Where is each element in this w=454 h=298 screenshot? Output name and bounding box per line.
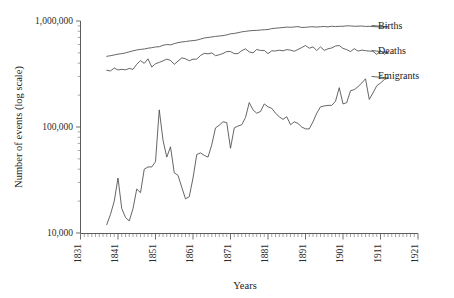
x-axis: 1831184118511861187118811891190119111921 bbox=[73, 234, 421, 264]
y-axis-tick-labels: 1,000,000100,00010,000 bbox=[35, 16, 73, 238]
series-line-emigrants bbox=[107, 78, 388, 225]
y-tick-label: 10,000 bbox=[47, 228, 73, 238]
x-axis-tick-labels: 1831184118511861187118811891190119111921 bbox=[73, 244, 421, 263]
x-tick-label: 1851 bbox=[148, 244, 158, 263]
series-end-labels: BirthsDeathsEmigrants bbox=[372, 20, 419, 81]
x-tick-label: 1911 bbox=[373, 244, 383, 263]
y-tick-label: 1,000,000 bbox=[35, 16, 73, 26]
line-chart: 1,000,000100,00010,000 18311841185118611… bbox=[0, 0, 454, 298]
x-tick-label: 1901 bbox=[335, 244, 345, 263]
x-axis-ticks bbox=[81, 234, 419, 240]
x-axis-title: Years bbox=[233, 280, 256, 291]
x-tick-label: 1831 bbox=[73, 244, 83, 263]
chart-figure: 1,000,000100,00010,000 18311841185118611… bbox=[0, 0, 454, 298]
x-tick-label: 1921 bbox=[410, 244, 420, 263]
x-tick-label: 1861 bbox=[185, 244, 195, 263]
series-lines bbox=[107, 26, 388, 225]
y-axis: 1,000,000100,00010,000 bbox=[35, 16, 81, 238]
y-axis-title: Number of events (log scale) bbox=[13, 66, 25, 188]
x-tick-label: 1881 bbox=[260, 244, 270, 263]
series-line-deaths bbox=[107, 46, 388, 71]
x-tick-label: 1871 bbox=[223, 244, 233, 263]
series-label-emigrants: Emigrants bbox=[378, 70, 419, 81]
y-tick-label: 100,000 bbox=[42, 122, 73, 132]
series-label-births: Births bbox=[378, 20, 403, 31]
series-line-births bbox=[107, 26, 388, 56]
x-tick-label: 1841 bbox=[110, 244, 120, 263]
series-label-deaths: Deaths bbox=[378, 45, 406, 56]
y-axis-ticks bbox=[76, 21, 81, 233]
x-tick-label: 1891 bbox=[298, 244, 308, 263]
